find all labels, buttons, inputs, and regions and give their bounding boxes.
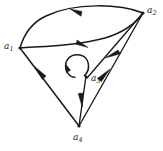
self-loop-a3-path	[66, 55, 89, 78]
node-label-a4: a4	[73, 133, 83, 142]
node-dot-a2	[141, 11, 144, 14]
edge-a1-to-a2	[20, 13, 143, 48]
node-label-a3-base: a	[91, 73, 96, 83]
node-dot-a4	[77, 124, 80, 127]
arrowhead-a3-to-a4	[78, 93, 83, 107]
node-dot-a1	[18, 46, 21, 49]
node-label-a3: a3	[91, 74, 101, 83]
edge-a2-to-a3-path	[87, 13, 143, 78]
node-label-a2-base: a	[147, 5, 152, 15]
node-label-a3-sub: 3	[97, 77, 101, 85]
arrowhead-a4-to-a1	[34, 66, 46, 79]
self-loop-a3	[66, 55, 89, 78]
edge-a4-to-a1-path	[20, 48, 79, 126]
node-label-a1: a1	[4, 42, 14, 51]
arrowhead-a2-to-a1	[70, 9, 82, 16]
graph-diagram: a1 a2 a3 a4	[0, 0, 163, 151]
node-label-a1-base: a	[4, 41, 9, 51]
node-label-a4-base: a	[73, 132, 78, 142]
node-label-a1-sub: 1	[10, 45, 14, 53]
node-dot-a3	[85, 76, 88, 79]
arrowhead-self-loop-a3	[66, 64, 71, 73]
node-label-a4-sub: 4	[79, 136, 83, 144]
edge-a3-to-a4	[78, 76, 86, 126]
edge-a4-to-a1	[20, 48, 79, 126]
graph-canvas	[0, 0, 163, 151]
node-label-a2-sub: 2	[153, 9, 157, 17]
edge-a2-to-a1	[20, 6, 143, 48]
node-label-a2: a2	[147, 6, 157, 15]
edge-a2-to-a3	[87, 13, 143, 78]
arrowhead-a1-to-a2	[76, 40, 88, 48]
